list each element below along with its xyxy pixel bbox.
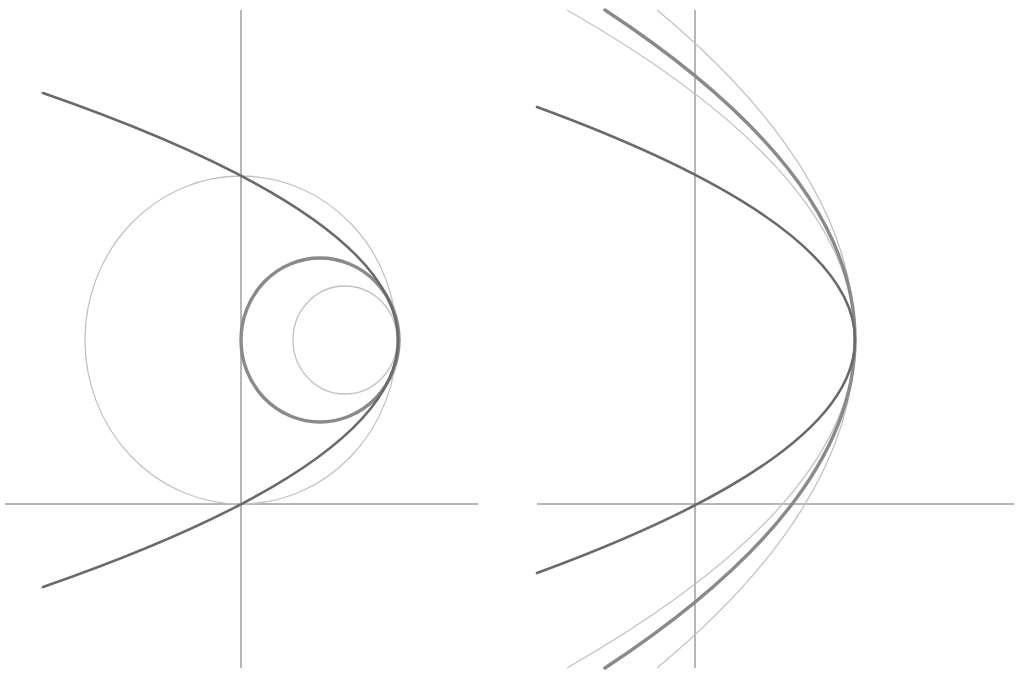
right-panel xyxy=(537,10,1014,668)
right-inner-light-curve xyxy=(567,10,855,668)
right-thick-curve xyxy=(605,10,855,668)
right-outer-light-curve xyxy=(657,10,855,668)
left-parabola xyxy=(43,93,398,587)
left-panel xyxy=(5,10,478,668)
left-small-circle xyxy=(293,286,397,394)
left-osculating-circle xyxy=(241,258,399,422)
figure-canvas xyxy=(0,0,1020,677)
